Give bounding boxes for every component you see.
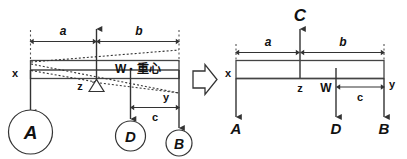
transition-arrow-group bbox=[193, 65, 217, 95]
beam-diagram-figure: a b x W ・ 重心 z y bbox=[0, 0, 407, 159]
left-node-label-d: D bbox=[125, 128, 136, 145]
left-point-label-y: y bbox=[163, 91, 170, 103]
right-diagram: C a b x z W y c A bbox=[225, 6, 396, 137]
right-reaction-label-c: C bbox=[294, 6, 307, 25]
left-point-label-z: z bbox=[77, 80, 83, 92]
left-construction-line-left bbox=[31, 71, 96, 83]
right-arrow-icon bbox=[193, 65, 217, 95]
left-center-of-gravity-label: 重心 bbox=[137, 61, 161, 76]
right-node-label-b: B bbox=[379, 120, 390, 137]
right-beam-body bbox=[236, 61, 384, 79]
left-dimension-a-label: a bbox=[60, 24, 67, 38]
right-node-label-a: A bbox=[230, 120, 242, 137]
right-load-label-w: W bbox=[320, 81, 332, 95]
left-point-label-x: x bbox=[12, 67, 19, 79]
right-dimension-c-label: c bbox=[357, 91, 363, 103]
right-point-label-z: z bbox=[297, 82, 303, 94]
left-diagram: a b x W ・ 重心 z y bbox=[9, 24, 193, 156]
left-node-label-b: B bbox=[174, 136, 184, 152]
right-point-label-y: y bbox=[389, 78, 396, 90]
left-dimension-c-label: c bbox=[152, 111, 158, 123]
right-point-label-x: x bbox=[225, 67, 232, 79]
right-node-label-d: D bbox=[331, 120, 342, 137]
right-dimension-b-label: b bbox=[339, 35, 346, 49]
figure-root: a b x W ・ 重心 z y bbox=[0, 0, 407, 159]
left-dimension-b-label: b bbox=[135, 24, 142, 38]
left-node-label-a: A bbox=[23, 122, 38, 143]
right-dimension-a-label: a bbox=[265, 35, 272, 49]
